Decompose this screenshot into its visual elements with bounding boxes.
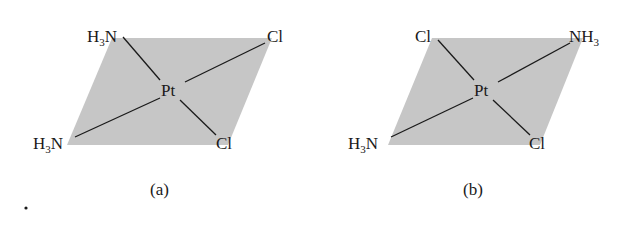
ligand-a-top-left: H3N (87, 28, 117, 47)
ligand-b-bottom-left: H3N (348, 135, 378, 154)
ligand-a-bottom-right: Cl (216, 135, 232, 152)
caption-b: (b) (463, 181, 483, 198)
ligand-b-top-right: NH3 (569, 28, 599, 47)
ligand-b-bottom-right: Cl (529, 135, 545, 152)
ligand-a-top-right: Cl (267, 28, 283, 45)
metal-a-center: Pt (161, 82, 175, 99)
ligand-b-top-left: Cl (415, 28, 431, 45)
ligand-a-bottom-left: H3N (33, 135, 63, 154)
caption-a: (a) (150, 181, 169, 198)
stray-dot (24, 206, 27, 209)
metal-b-center: Pt (474, 82, 488, 99)
